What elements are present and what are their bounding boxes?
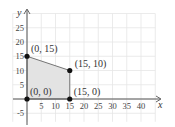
corner-point [67, 68, 72, 73]
x-tick-labels: 510152025303540 [39, 101, 145, 111]
y-tick-labels: 252015105-5 [16, 23, 25, 119]
corner-point-label: (15, 0) [74, 86, 101, 98]
x-tick-label: 40 [137, 101, 146, 111]
x-axis-label: x [157, 99, 163, 110]
x-tick-label: 10 [51, 101, 60, 111]
corner-point-label: (15, 10) [75, 58, 107, 70]
corner-point-label: (0, 0) [30, 86, 52, 98]
y-tick-label: -5 [17, 108, 24, 118]
feasible-region-chart: x y 510152025303540 252015105-5 (0, 15)(… [0, 0, 175, 127]
y-tick-label: 5 [20, 80, 24, 90]
y-axis-label: y [16, 7, 22, 18]
x-tick-label: 30 [108, 101, 117, 111]
corner-point-label: (0, 15) [31, 43, 58, 55]
y-tick-label: 25 [16, 23, 25, 33]
x-tick-label: 5 [39, 101, 43, 111]
corner-point [67, 96, 72, 101]
x-tick-label: 35 [123, 101, 132, 111]
y-tick-label: 15 [16, 51, 25, 61]
corner-point [24, 96, 29, 101]
corner-point [24, 54, 29, 59]
x-tick-label: 20 [80, 101, 89, 111]
x-tick-label: 15 [66, 101, 75, 111]
x-tick-label: 25 [94, 101, 103, 111]
y-tick-label: 10 [16, 66, 25, 76]
y-tick-label: 20 [16, 37, 25, 47]
